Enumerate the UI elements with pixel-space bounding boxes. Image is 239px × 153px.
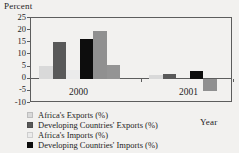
- chart-root: Percent Year 2520151050-5-10 20002001 Af…: [0, 0, 239, 153]
- legend-label: Africa's Imports (%): [38, 131, 108, 140]
- chart-legend: Africa's Exports (%)Developing Countries…: [27, 110, 158, 150]
- bar: [190, 71, 204, 79]
- legend-label: Developing Countries' Exports (%): [38, 121, 158, 130]
- bar: [53, 42, 67, 79]
- y-tick-label: 20: [0, 25, 26, 33]
- bar: [163, 74, 177, 79]
- bar: [203, 79, 217, 91]
- x-tick-label: 2000: [69, 87, 88, 97]
- y-tick-label: 25: [0, 13, 26, 21]
- y-axis-title: Percent: [4, 1, 32, 11]
- y-tick-label: 5: [0, 61, 26, 69]
- bar: [93, 31, 107, 79]
- plot-area: [30, 17, 232, 102]
- bar: [39, 66, 53, 79]
- y-tick-label: 0: [0, 73, 26, 81]
- bar: [80, 39, 94, 79]
- y-tick-mark: [27, 102, 30, 103]
- y-tick-label: 15: [0, 37, 26, 45]
- bar: [149, 75, 163, 79]
- legend-item[interactable]: Africa's Imports (%): [27, 130, 158, 140]
- legend-label: Africa's Exports (%): [38, 111, 108, 120]
- x-axis-title: Year: [200, 117, 217, 127]
- legend-swatch-icon: [27, 112, 33, 118]
- legend-item[interactable]: Africa's Exports (%): [27, 110, 158, 120]
- x-tick-label: 2001: [179, 87, 198, 97]
- legend-swatch-icon: [27, 142, 33, 148]
- x-tick-mark: [141, 79, 142, 82]
- bar: [66, 70, 80, 79]
- legend-item[interactable]: Developing Countries' Exports (%): [27, 120, 158, 130]
- x-tick-mark: [233, 79, 234, 82]
- legend-item[interactable]: Developing Countries' Imports (%): [27, 140, 158, 150]
- y-tick-label: -10: [0, 98, 26, 106]
- legend-swatch-icon: [27, 122, 33, 128]
- y-tick-label: -5: [0, 85, 26, 93]
- y-tick-label: 10: [0, 49, 26, 57]
- legend-swatch-icon: [27, 132, 33, 138]
- bar: [107, 65, 121, 78]
- legend-label: Developing Countries' Imports (%): [38, 141, 158, 150]
